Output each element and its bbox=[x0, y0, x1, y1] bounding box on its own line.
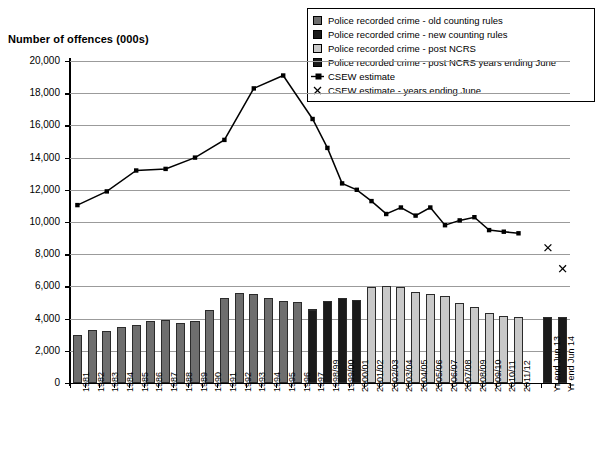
x-axis-tick-label: 2010/11 bbox=[507, 322, 517, 392]
x-axis-tick-label: 2006/07 bbox=[449, 322, 459, 392]
x-axis-tick-label: 1998/99 bbox=[331, 322, 341, 392]
line-data-point bbox=[369, 199, 373, 203]
line-data-point bbox=[252, 86, 256, 90]
x-axis-tick-label: 2007/08 bbox=[463, 322, 473, 392]
x-axis-tick-label: 2003/04 bbox=[404, 322, 414, 392]
y-axis-tick-label: 20,000 bbox=[8, 55, 60, 66]
cross-data-point bbox=[559, 265, 566, 272]
x-axis-tick-label: 1986 bbox=[154, 322, 164, 392]
line-data-point bbox=[472, 215, 476, 219]
line-data-point bbox=[428, 205, 432, 209]
legend-item-label: Police recorded crime - post NCRS bbox=[328, 43, 476, 54]
x-axis-tick-label: 2004/05 bbox=[419, 322, 429, 392]
x-axis-tick-label: 1988 bbox=[184, 322, 194, 392]
y-axis-tick-label: 2,000 bbox=[8, 345, 60, 356]
line-data-point bbox=[516, 231, 520, 235]
legend-swatch-icon bbox=[313, 44, 322, 53]
x-axis-tick-label: 1984 bbox=[125, 322, 135, 392]
x-axis-tick-label: 1992 bbox=[243, 322, 253, 392]
y-axis-tick-label: 0 bbox=[8, 377, 60, 388]
x-axis-tick-label: 2008/09 bbox=[478, 322, 488, 392]
x-axis-tick-label: 1994 bbox=[272, 322, 282, 392]
y-axis-tick-label: 6,000 bbox=[8, 280, 60, 291]
x-axis-tick-label: 2000/01 bbox=[360, 322, 370, 392]
x-axis-tick-label: 1989 bbox=[199, 322, 209, 392]
legend-swatch-icon bbox=[313, 16, 322, 25]
x-axis-tick-label: 2002/03 bbox=[390, 322, 400, 392]
legend-swatch-icon bbox=[313, 30, 322, 39]
line-data-point bbox=[163, 167, 167, 171]
line-data-point bbox=[281, 73, 285, 77]
x-axis-tick-label: Yr end Jun 13 bbox=[552, 322, 562, 392]
line-data-point bbox=[310, 117, 314, 121]
x-axis-tick-label: 1996 bbox=[302, 322, 312, 392]
line-data-point bbox=[413, 213, 417, 217]
x-axis-tick-label: 1995 bbox=[287, 322, 297, 392]
x-axis-tick-label: 1993 bbox=[257, 322, 267, 392]
y-axis-tick-label: 12,000 bbox=[8, 184, 60, 195]
x-axis-tick-label: 1997 bbox=[316, 322, 326, 392]
x-axis-tick-label: 1991 bbox=[228, 322, 238, 392]
line-data-point bbox=[355, 188, 359, 192]
y-axis-tick-label: 10,000 bbox=[8, 216, 60, 227]
legend-item: Police recorded crime - old counting rul… bbox=[313, 13, 589, 27]
line-data-point bbox=[75, 203, 79, 207]
line-data-point bbox=[502, 230, 506, 234]
line-data-point bbox=[384, 212, 388, 216]
legend-item-label: Police recorded crime - old counting rul… bbox=[328, 15, 503, 26]
y-axis-tick-label: 8,000 bbox=[8, 248, 60, 259]
line-data-point bbox=[325, 146, 329, 150]
line-data-point bbox=[487, 228, 491, 232]
x-axis-tick-label: 1990 bbox=[213, 322, 223, 392]
legend-item-label: Police recorded crime - new counting rul… bbox=[328, 29, 508, 40]
x-axis-tick-label: 1999/00 bbox=[346, 322, 356, 392]
chart-root: Number of offences (000s) Police recorde… bbox=[0, 0, 603, 467]
x-axis-tick-label: 2011/12 bbox=[522, 322, 532, 392]
line-data-point bbox=[340, 181, 344, 185]
x-axis-tick bbox=[541, 383, 542, 388]
x-axis-tick-label: Yr end Jun 14 bbox=[566, 322, 576, 392]
line-data-point bbox=[193, 155, 197, 159]
line-data-point bbox=[222, 138, 226, 142]
x-axis-tick-label: 2009/10 bbox=[493, 322, 503, 392]
y-axis-tick-label: 16,000 bbox=[8, 119, 60, 130]
x-axis-tick-label: 1983 bbox=[110, 322, 120, 392]
legend-item: Police recorded crime - post NCRS bbox=[313, 41, 589, 55]
x-axis-tick bbox=[70, 383, 71, 388]
line-data-point bbox=[399, 205, 403, 209]
legend-item: Police recorded crime - new counting rul… bbox=[313, 27, 589, 41]
x-axis-tick-label: 1987 bbox=[169, 322, 179, 392]
y-axis-tick-label: 4,000 bbox=[8, 313, 60, 324]
csew-estimate-line bbox=[77, 76, 518, 234]
x-axis-tick-label: 1982 bbox=[96, 322, 106, 392]
x-axis-tick-label: 2001/02 bbox=[375, 322, 385, 392]
line-data-point bbox=[458, 218, 462, 222]
y-axis-tick-label: 18,000 bbox=[8, 87, 60, 98]
x-axis-tick-label: 1981 bbox=[81, 322, 91, 392]
line-data-point bbox=[105, 189, 109, 193]
y-axis-tick-label: 14,000 bbox=[8, 152, 60, 163]
line-data-point bbox=[443, 223, 447, 227]
x-axis-tick-label: 2005/06 bbox=[434, 322, 444, 392]
cross-data-point bbox=[545, 244, 552, 251]
x-axis-tick-label: 1985 bbox=[140, 322, 150, 392]
line-data-point bbox=[134, 168, 138, 172]
y-axis-title: Number of offences (000s) bbox=[8, 33, 149, 45]
